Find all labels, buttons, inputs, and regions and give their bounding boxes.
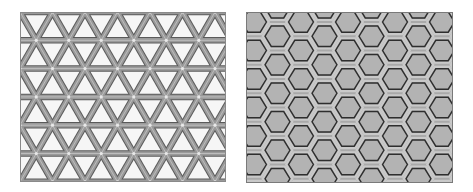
triangle-lattice-panel: [20, 12, 226, 182]
hexagon-lattice-panel: [246, 12, 453, 183]
hexagon-lattice-graphic: [246, 12, 453, 183]
triangle-lattice-graphic: [20, 12, 226, 182]
